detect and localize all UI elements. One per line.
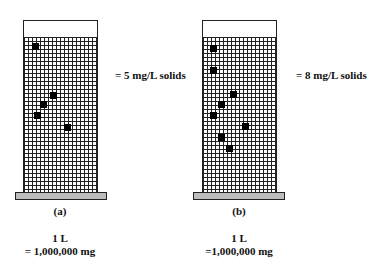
cylinder-b-base	[193, 192, 285, 200]
solid-particle	[50, 92, 57, 99]
volume-b-line1: 1 L	[189, 232, 289, 244]
cylinder-b-headspace	[202, 20, 277, 38]
cylinder-a-headspace	[23, 20, 98, 38]
caption-a: (a)	[40, 205, 80, 217]
solid-particle	[242, 123, 249, 130]
solid-particle	[210, 112, 217, 119]
caption-b: (b)	[219, 205, 259, 217]
solid-particle	[34, 112, 41, 119]
solid-particle	[40, 101, 47, 108]
solid-particle	[210, 45, 217, 52]
legend-b: = 8 mg/L solids	[296, 69, 367, 81]
solid-particle	[218, 134, 225, 141]
solid-particle	[230, 91, 237, 98]
volume-a-line1: 1 L	[10, 232, 110, 244]
solid-particle	[32, 43, 39, 50]
solid-particle	[210, 67, 217, 74]
solid-particle	[218, 101, 225, 108]
cylinder-a-base	[15, 192, 107, 200]
volume-b-line2: =1,000,000 mg	[189, 245, 289, 257]
solid-particle	[226, 145, 233, 152]
solid-particle	[64, 124, 71, 131]
volume-a-line2: = 1,000,000 mg	[10, 245, 110, 257]
legend-a: = 5 mg/L solids	[115, 69, 186, 81]
